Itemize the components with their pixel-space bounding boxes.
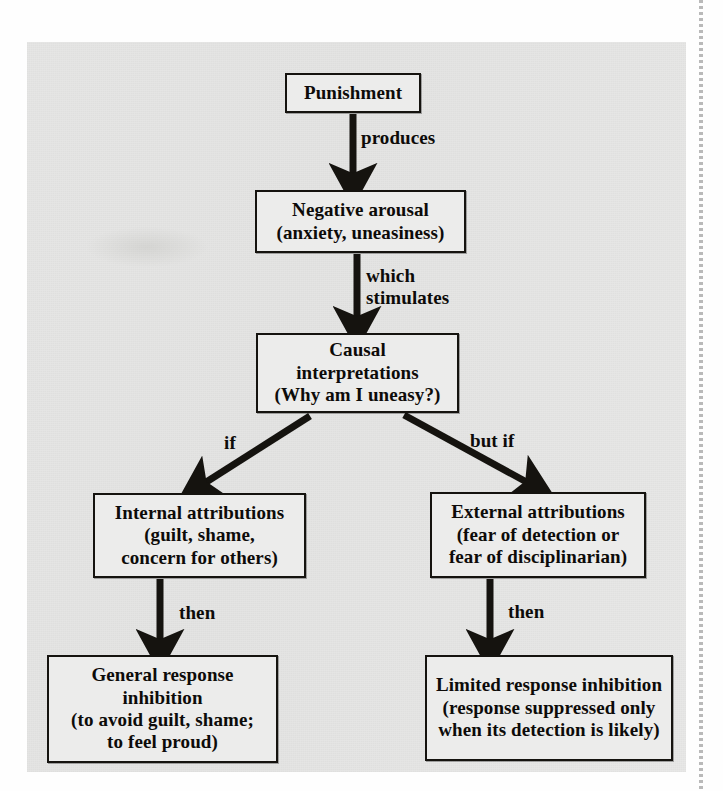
node-general-response-inhibition: General response inhibition (to avoid gu… <box>47 655 278 763</box>
scanned-page: Punishment Negative arousal (anxiety, un… <box>0 0 723 791</box>
edge-label-which-stimulates: which stimulates <box>366 265 449 309</box>
node-negative-arousal-label: Negative arousal (anxiety, uneasiness) <box>269 197 453 246</box>
node-internal-attributions-label: Internal attributions (guilt, shame, con… <box>107 500 292 571</box>
edge-label-then-right: then <box>508 601 544 623</box>
node-limited-response-inhibition: Limited response inhibition (response su… <box>425 655 673 761</box>
node-limited-response-inhibition-label: Limited response inhibition (response su… <box>428 672 670 743</box>
node-external-attributions: External attributions (fear of detection… <box>430 492 646 578</box>
node-punishment-label: Punishment <box>296 80 410 106</box>
node-negative-arousal: Negative arousal (anxiety, uneasiness) <box>255 190 466 253</box>
page-margin-dotted-rule <box>699 0 703 791</box>
edge-label-but-if: but if <box>470 430 514 452</box>
node-internal-attributions: Internal attributions (guilt, shame, con… <box>93 493 306 578</box>
node-causal-interpretations: Causal interpretations (Why am I uneasy?… <box>256 333 459 413</box>
edge-label-produces: produces <box>361 127 435 149</box>
node-punishment: Punishment <box>285 73 421 113</box>
node-general-response-inhibition-label: General response inhibition (to avoid gu… <box>49 662 276 756</box>
node-causal-interpretations-label: Causal interpretations (Why am I uneasy?… <box>267 337 449 408</box>
node-external-attributions-label: External attributions (fear of detection… <box>441 499 635 570</box>
edge-label-then-left: then <box>179 602 215 624</box>
edge-label-if: if <box>224 432 236 454</box>
scan-artifact <box>87 227 207 267</box>
